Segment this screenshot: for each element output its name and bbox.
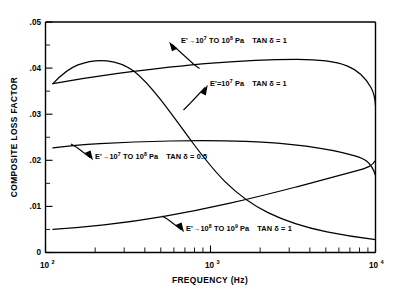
y-tick-labels: 0 .01 .02 .03 .04 .05 [30,18,42,258]
x-axis-ticks [46,246,376,253]
series-annotation-0-text: E'→107 TO 108 PaTAN δ = 1 [181,36,287,45]
series-annotation-1: E'=107 PaTAN δ = 1 [210,79,287,88]
series-annotation-2: E'→107 TO 108 PaTAN δ = 0.5 [95,152,207,161]
y-tick-label: .03 [30,110,42,119]
series-annotation-3: E'→108 TO 109 PaTAN δ = 1 [186,224,292,233]
x-tick-labels: 10 2 10 3 10 4 [40,259,385,270]
annotation-leader-1 [184,85,208,110]
x-tick-label-exponent: 3 [217,259,220,265]
x-tick-label: 10 [205,261,215,270]
x-tick-label: 10 [369,261,379,270]
annotation-leader-2 [71,144,93,160]
chart-figure: 0 .01 .02 .03 .04 .05 10 2 10 3 10 4 FRE… [0,0,398,293]
x-tick-label: 10 [40,261,50,270]
y-tick-label: 0 [36,248,41,257]
y-tick-label: .04 [30,64,42,73]
y-axis-title: COMPOSITE LOSS FACTOR [9,77,19,197]
x-tick-label-exponent: 4 [381,259,385,265]
series-annotation-0: E'→107 TO 108 PaTAN δ = 1 [181,36,287,45]
series-annotation-2-text: E'→107 TO 108 PaTAN δ = 0.5 [95,152,207,161]
y-tick-label: .01 [30,202,42,211]
y-tick-label: .05 [30,18,42,27]
annotation-leader-3 [162,216,184,232]
series-annotation-1-text: E'=107 PaTAN δ = 1 [210,79,287,88]
x-tick-label-exponent: 2 [52,259,55,265]
y-tick-label: .02 [30,156,42,165]
series-annotation-3-text: E'→108 TO 109 PaTAN δ = 1 [186,224,292,233]
x-axis-title: FREQUENCY (Hz) [172,275,248,285]
